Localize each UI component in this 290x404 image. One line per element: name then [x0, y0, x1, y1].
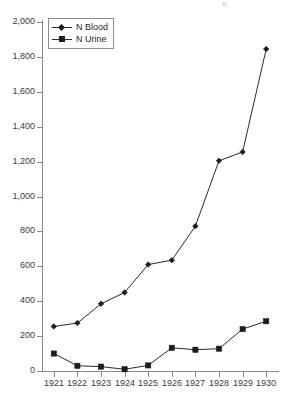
series-n-blood	[51, 46, 269, 329]
legend-item-n-urine: N Urine	[52, 33, 108, 45]
data-point-marker	[216, 158, 222, 164]
data-point-marker	[169, 345, 174, 350]
legend-marker-diamond-icon	[52, 22, 72, 33]
legend-label-n-urine: N Urine	[72, 34, 107, 45]
data-point-marker	[146, 363, 151, 368]
series-n-urine	[51, 319, 269, 372]
data-point-marker	[75, 363, 80, 368]
data-point-marker	[263, 46, 269, 52]
data-point-marker	[240, 327, 245, 332]
data-point-marker	[193, 347, 198, 352]
data-point-marker	[216, 346, 221, 351]
legend-item-n-blood: N Blood	[52, 21, 108, 33]
data-point-marker	[51, 351, 56, 356]
data-point-marker	[264, 319, 269, 324]
line-chart: 02004006008001,0001,2001,4001,6001,8002,…	[0, 0, 290, 404]
series-line	[54, 321, 266, 369]
series-line	[54, 49, 266, 326]
data-point-marker	[98, 364, 103, 369]
series-plot-area	[0, 0, 290, 404]
data-point-marker	[51, 324, 57, 330]
data-point-marker	[122, 367, 127, 372]
data-point-marker	[240, 149, 246, 155]
chart-legend: N Blood N Urine	[48, 18, 114, 49]
legend-label-n-blood: N Blood	[72, 22, 108, 33]
legend-marker-square-icon	[52, 34, 72, 45]
